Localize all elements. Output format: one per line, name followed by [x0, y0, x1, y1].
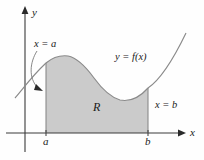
x-axis-arrowhead — [178, 130, 186, 137]
leader-arrow-x-equals-a — [31, 51, 38, 88]
y-axis-label: y — [32, 7, 37, 18]
y-axis-arrowhead — [22, 6, 29, 14]
tick-label-b: b — [145, 136, 151, 147]
x-axis-label: x — [190, 127, 195, 138]
shaded-region-R — [46, 56, 148, 133]
tick-label-a: a — [43, 136, 49, 147]
annotation-x-equals-a: x = a — [34, 39, 56, 50]
figure-canvas: y x a b x = a y = f(x) x = b R — [0, 0, 204, 160]
annotation-x-equals-b: x = b — [155, 100, 177, 111]
region-label-R: R — [93, 101, 100, 113]
diagram-svg — [0, 0, 204, 160]
annotation-y-equals-f-of-x: y = f(x) — [115, 52, 147, 63]
